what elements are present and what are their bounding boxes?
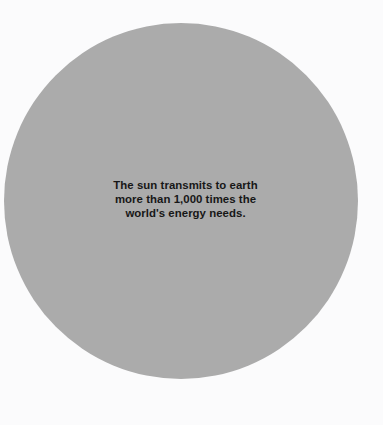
statistic-caption: The sun transmits to earth more than 1,0… bbox=[0, 178, 371, 221]
caption-line-1: The sun transmits to earth bbox=[0, 178, 371, 192]
graphic-canvas: The sun transmits to earth more than 1,0… bbox=[0, 0, 383, 425]
caption-line-2: more than 1,000 times the bbox=[0, 192, 371, 206]
caption-line-3: world's energy needs. bbox=[0, 206, 371, 220]
